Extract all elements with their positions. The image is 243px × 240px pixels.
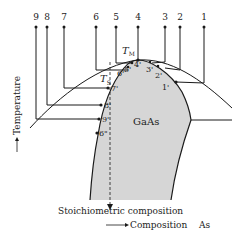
top-label-3: 3 [162, 12, 168, 22]
ts-label: TS [100, 73, 111, 86]
label-6p: 6' [117, 69, 124, 78]
label-7p: 7' [111, 84, 118, 93]
label-1p: 1' [162, 83, 169, 92]
stoich-label: Stoichiometric composition [58, 206, 183, 216]
gaas-label: GaAs [133, 116, 159, 127]
temperature-arrow-head [15, 137, 19, 141]
composition-element-label: As [198, 220, 210, 230]
composition-arrow-head [125, 223, 129, 227]
top-label-9: 9 [33, 12, 39, 22]
label-8p: 8' [104, 101, 111, 110]
composition-axis-label: Composition [130, 220, 187, 230]
phase-diagram: 9 8 7 6 5 4 3 2 1 TM TS 1' 2' 3' 4' 5' 6… [0, 0, 243, 240]
top-label-7: 7 [61, 12, 67, 22]
label-5p: 5' [124, 65, 131, 74]
top-label-1: 1 [201, 12, 207, 22]
label-9p: 9' [102, 115, 109, 124]
tm-label: TM [122, 45, 135, 57]
top-dots [35, 26, 206, 29]
label-6pp: 6" [99, 129, 108, 138]
top-label-8: 8 [44, 12, 50, 22]
top-label-2: 2 [177, 12, 183, 22]
label-3p: 3' [146, 65, 153, 74]
label-4p: 4' [134, 60, 141, 69]
label-2p: 2' [155, 71, 162, 80]
temperature-axis-label: Temperature [12, 76, 22, 135]
top-label-5: 5 [113, 12, 119, 22]
top-label-6: 6 [93, 12, 99, 22]
top-label-4: 4 [135, 12, 141, 22]
